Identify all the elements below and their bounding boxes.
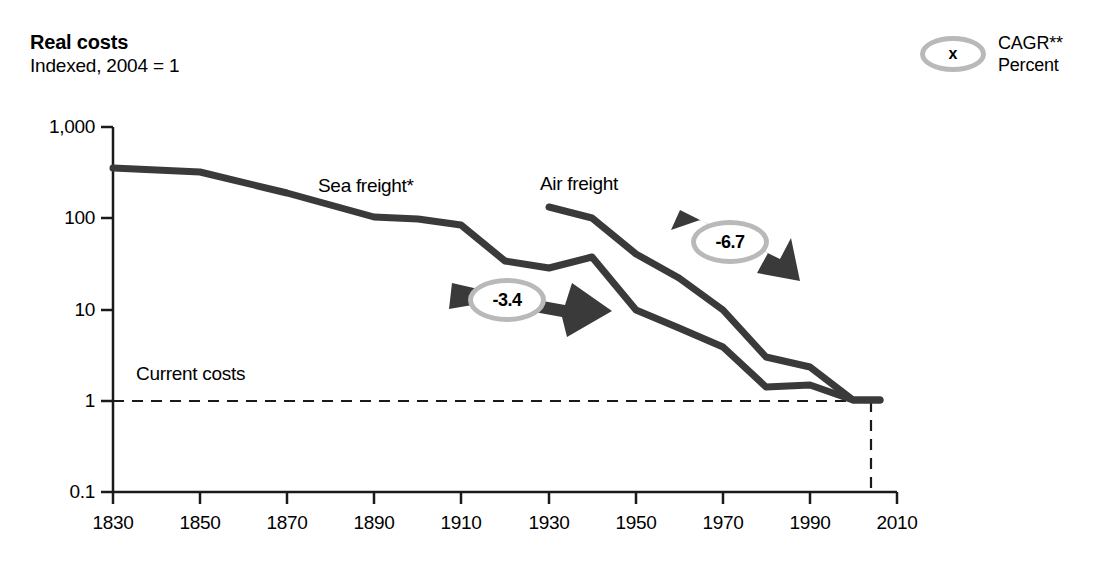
y-tick-label-10: 10 bbox=[10, 299, 95, 321]
y-tick-label-1: 1 bbox=[10, 390, 95, 412]
x-tick-label-1890: 1890 bbox=[339, 512, 409, 534]
x-tick-label-1970: 1970 bbox=[688, 512, 758, 534]
x-tick-label-1830: 1830 bbox=[78, 512, 148, 534]
sea-freight-cagr-value: -3.4 bbox=[468, 278, 546, 322]
y-tick-label-0-1: 0.1 bbox=[10, 481, 95, 503]
series-label-sea-freight: Sea freight* bbox=[318, 175, 414, 197]
chart-plot-area bbox=[0, 0, 1115, 576]
x-tick-label-1990: 1990 bbox=[775, 512, 845, 534]
chart-figure: Real costs Indexed, 2004 = 1 x CAGR** Pe… bbox=[0, 0, 1115, 576]
air-freight-cagr-value: -6.7 bbox=[691, 220, 769, 264]
x-tick-label-1930: 1930 bbox=[514, 512, 584, 534]
air-freight-cagr-badge: -6.7 bbox=[691, 220, 769, 264]
x-tick-label-1950: 1950 bbox=[601, 512, 671, 534]
series-label-air-freight: Air freight bbox=[540, 173, 618, 195]
sea-freight-cagr-badge: -3.4 bbox=[468, 278, 546, 322]
x-tick-label-2010: 2010 bbox=[862, 512, 932, 534]
y-tick-label-100: 100 bbox=[10, 207, 95, 229]
y-tick-label-1000: 1,000 bbox=[10, 116, 95, 138]
x-tick-label-1870: 1870 bbox=[252, 512, 322, 534]
x-tick-label-1850: 1850 bbox=[165, 512, 235, 534]
x-tick-label-1910: 1910 bbox=[426, 512, 496, 534]
current-costs-label: Current costs bbox=[136, 363, 245, 385]
x-axis-ticks bbox=[113, 492, 897, 504]
y-axis-ticks bbox=[101, 127, 113, 492]
